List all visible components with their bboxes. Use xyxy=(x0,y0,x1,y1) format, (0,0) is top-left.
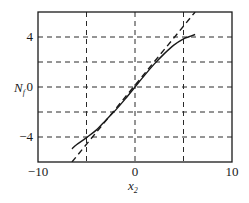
chart: 40−4 −10010 Nf x2 xyxy=(0,0,249,203)
x-tick-label: −10 xyxy=(28,164,48,179)
x-tick-labels: −10010 xyxy=(28,164,239,179)
y-tick-label: 0 xyxy=(27,79,34,94)
nonlinear-curve xyxy=(72,35,195,149)
x-axis-label: x2 xyxy=(127,178,138,195)
x-tick-label: 10 xyxy=(226,164,239,179)
x-tick-label: 0 xyxy=(132,164,139,179)
y-tick-label: −4 xyxy=(19,129,33,144)
y-tick-label: 4 xyxy=(27,29,34,44)
y-axis-label: Nf xyxy=(13,80,27,97)
